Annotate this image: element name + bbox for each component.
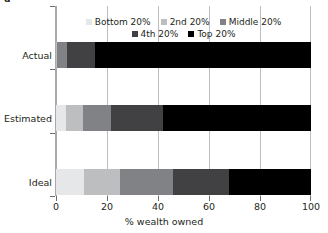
bar-segment xyxy=(67,42,95,68)
bar-segment xyxy=(84,169,120,195)
bar-segment xyxy=(111,105,163,131)
legend-row-bottom: 4th 20%Top 20% xyxy=(56,28,311,40)
legend-item: Bottom 20% xyxy=(86,17,151,27)
legend-item: Top 20% xyxy=(188,29,235,39)
legend-label: 4th 20% xyxy=(141,29,179,39)
y-axis-label: Estimated xyxy=(0,113,52,124)
bar-segment xyxy=(66,105,83,131)
bar-segment xyxy=(163,105,311,131)
chart-legend: Bottom 20%2nd 20%Middle 20% 4th 20%Top 2… xyxy=(56,16,311,40)
legend-swatch-icon xyxy=(188,31,194,37)
x-axis-tick-label: 0 xyxy=(41,201,71,212)
bar-segment xyxy=(173,169,229,195)
legend-item: 2nd 20% xyxy=(161,17,210,27)
legend-swatch-icon xyxy=(220,19,226,25)
bar-segment xyxy=(229,169,311,195)
clipped-title-sliver: g xyxy=(4,0,304,2)
legend-label: Bottom 20% xyxy=(95,17,151,27)
bar-segment xyxy=(120,169,174,195)
legend-swatch-icon xyxy=(161,19,167,25)
bar-segment xyxy=(56,169,84,195)
x-axis-tick-label: 80 xyxy=(245,201,275,212)
x-axis-tick-label: 20 xyxy=(92,201,122,212)
legend-swatch-icon xyxy=(86,19,92,25)
bar-segment xyxy=(56,105,66,131)
legend-item: 4th 20% xyxy=(132,29,179,39)
y-tick-0 xyxy=(50,6,55,7)
legend-row-top: Bottom 20%2nd 20%Middle 20% xyxy=(56,16,311,28)
x-axis-tick-label: 60 xyxy=(194,201,224,212)
x-axis-tick-label: 100 xyxy=(296,201,326,212)
bar-row xyxy=(56,42,311,68)
y-axis-label: Ideal xyxy=(0,177,52,188)
bar-segment xyxy=(83,105,111,131)
y-tick-1 xyxy=(50,69,55,70)
bar-segment xyxy=(57,42,67,68)
bar-row xyxy=(56,105,311,131)
legend-swatch-icon xyxy=(132,31,138,37)
bar-row xyxy=(56,169,311,195)
y-axis-label: Actual xyxy=(0,50,52,61)
bar-segment xyxy=(95,42,311,68)
chart-figure: g ActualEstimatedIdeal 020406080100 % we… xyxy=(0,0,328,233)
legend-label: 2nd 20% xyxy=(170,17,210,27)
x-axis-title: % wealth owned xyxy=(0,216,328,227)
x-axis-tick-label: 40 xyxy=(143,201,173,212)
legend-item: Middle 20% xyxy=(220,17,282,27)
legend-label: Top 20% xyxy=(197,29,235,39)
legend-label: Middle 20% xyxy=(229,17,282,27)
y-tick-2 xyxy=(50,133,55,134)
y-tick-3 xyxy=(50,196,55,197)
